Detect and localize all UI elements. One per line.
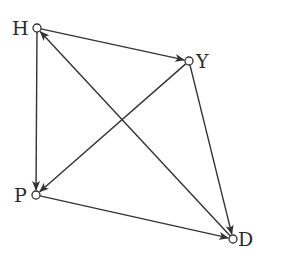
node-circle-h bbox=[33, 24, 41, 32]
node-y: Y bbox=[185, 50, 209, 72]
edge-y-to-p bbox=[40, 64, 186, 192]
node-label-d: D bbox=[238, 228, 253, 250]
node-circle-p bbox=[32, 191, 40, 199]
nodes: HYPD bbox=[12, 17, 253, 250]
node-label-h: H bbox=[12, 17, 29, 39]
node-label-p: P bbox=[14, 184, 27, 206]
node-label-y: Y bbox=[195, 50, 209, 72]
node-d: D bbox=[229, 228, 253, 250]
edge-y-to-d bbox=[190, 65, 232, 234]
edge-p-to-d bbox=[40, 196, 228, 238]
edge-h-to-p bbox=[36, 32, 37, 190]
directed-graph-diagram: HYPD bbox=[0, 0, 281, 259]
node-circle-y bbox=[185, 57, 193, 65]
node-circle-d bbox=[229, 235, 237, 243]
